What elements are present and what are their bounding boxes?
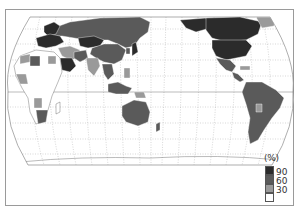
region-angola bbox=[34, 98, 42, 108]
region-png bbox=[134, 92, 146, 98]
legend-title: (%) bbox=[264, 153, 279, 163]
legend-swatch-30 bbox=[265, 184, 274, 193]
legend-swatch-0 bbox=[265, 193, 274, 202]
region-caribbean bbox=[240, 66, 250, 70]
region-bolivia bbox=[256, 104, 262, 112]
legend-swatch-60 bbox=[265, 175, 274, 184]
region-philippines bbox=[124, 68, 130, 78]
region-new-zealand bbox=[156, 122, 160, 132]
region-morocco bbox=[20, 54, 30, 64]
legend-swatch-90 bbox=[265, 166, 274, 175]
region-korea bbox=[126, 48, 130, 54]
region-egypt bbox=[48, 56, 56, 64]
region-australia bbox=[122, 100, 150, 126]
region-south-africa bbox=[36, 110, 48, 124]
world-map bbox=[0, 0, 298, 212]
legend: (%) 90 60 30 bbox=[264, 153, 296, 203]
region-madagascar bbox=[56, 102, 60, 114]
legend-tick-30: 30 bbox=[276, 186, 287, 195]
region-algeria bbox=[30, 56, 40, 66]
